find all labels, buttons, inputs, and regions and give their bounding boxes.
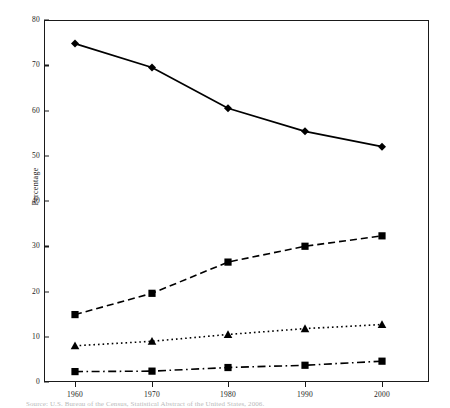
y-axis-tick-label: 20 xyxy=(0,288,40,296)
x-axis-tick-mark xyxy=(152,382,153,387)
y-axis-tick-label: 70 xyxy=(0,61,40,69)
x-axis-tick-mark xyxy=(382,382,383,387)
plot-area xyxy=(44,20,429,382)
y-axis-tick-mark xyxy=(44,155,49,156)
y-axis-tick-mark xyxy=(44,291,49,292)
y-axis-tick-label: 40 xyxy=(0,197,40,205)
y-axis-tick-mark xyxy=(44,336,49,337)
x-axis-tick-label: 1980 xyxy=(198,390,258,399)
y-axis-tick-label: 0 xyxy=(0,378,40,386)
y-axis-tick-label: 30 xyxy=(0,242,40,250)
y-axis-tick-mark xyxy=(44,110,49,111)
y-axis-tick-label: 10 xyxy=(0,333,40,341)
y-axis-tick-label: 60 xyxy=(0,107,40,115)
x-axis-tick-mark xyxy=(305,382,306,387)
y-axis-tick-mark xyxy=(44,20,49,21)
figure-caption: Source: U.S. Bureau of the Census, Stati… xyxy=(26,400,450,408)
x-axis-tick-label: 1990 xyxy=(275,390,335,399)
y-axis-tick-label: 80 xyxy=(0,16,40,24)
x-axis-tick-mark xyxy=(75,382,76,387)
y-axis-tick-label: 50 xyxy=(0,152,40,160)
x-axis-tick-label: 1960 xyxy=(45,390,105,399)
x-axis-tick-mark xyxy=(228,382,229,387)
y-axis-title: Percentage xyxy=(31,132,40,242)
y-axis-tick-mark xyxy=(44,65,49,66)
x-axis-tick-label: 2000 xyxy=(352,390,412,399)
y-axis-tick-mark xyxy=(44,382,49,383)
y-axis-tick-mark xyxy=(44,201,49,202)
y-axis-tick-mark xyxy=(44,246,49,247)
chart-figure: Percentage 01020304050607080 19601970198… xyxy=(0,0,450,408)
x-axis-tick-label: 1970 xyxy=(122,390,182,399)
